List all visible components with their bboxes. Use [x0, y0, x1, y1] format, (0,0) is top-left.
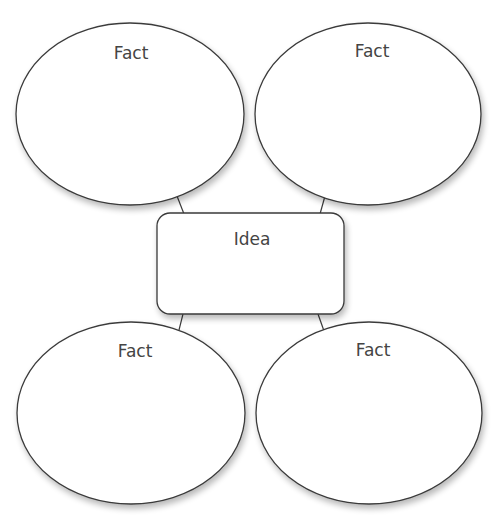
fact-label: Fact: [356, 340, 391, 360]
fact-node-top-left: Fact: [16, 23, 244, 205]
connector-bottom-left: [179, 314, 183, 330]
fact-label: Fact: [355, 41, 390, 61]
idea-web-diagram: Fact Fact Idea Fact Fact: [0, 0, 499, 521]
fact-node-bottom-left: Fact: [17, 322, 245, 504]
fact-node-top-right: Fact: [255, 23, 481, 205]
fact-label: Fact: [118, 341, 153, 361]
fact-label: Fact: [114, 43, 149, 63]
idea-label: Idea: [234, 229, 271, 249]
idea-node-center: Idea: [157, 213, 344, 314]
fact-node-bottom-right: Fact: [256, 322, 482, 504]
connector-bottom-right: [318, 314, 324, 331]
connector-top-right: [320, 196, 325, 214]
connector-top-left: [177, 196, 184, 214]
